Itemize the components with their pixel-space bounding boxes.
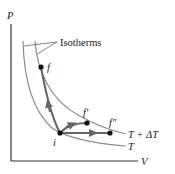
path-i-to-f (41, 67, 60, 133)
label-f-prime: f′ (83, 107, 89, 118)
point-f (38, 64, 43, 69)
isotherms-label: Isotherms (60, 37, 101, 48)
x-axis-label: V (141, 156, 149, 167)
process-paths (41, 67, 110, 133)
point-f-double-prime (107, 130, 112, 135)
y-axis-label: P (6, 10, 14, 21)
point-i (57, 130, 62, 135)
isotherm-upper-label: T + ΔT (128, 129, 159, 140)
label-i: i (53, 137, 56, 148)
label-f-double-prime: f″ (109, 117, 117, 128)
point-f-prime (84, 120, 89, 125)
arrow-i-to-f-prime (66, 124, 73, 127)
path-i-to-f-prime (60, 123, 87, 133)
label-f: f (47, 62, 52, 73)
pv-diagram: P V Isotherms f f′ f″ i T + ΔT T (0, 0, 175, 174)
isotherm-lower-label: T (128, 141, 135, 152)
isotherms-callout (24, 42, 57, 54)
